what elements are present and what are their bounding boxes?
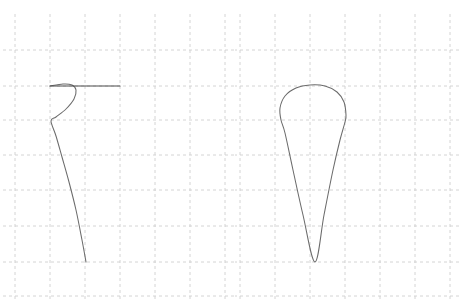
left-panel-gridlines xyxy=(3,14,235,302)
curve-closed-teardrop-curve xyxy=(280,85,346,262)
left-panel xyxy=(0,0,235,306)
left-panel-canvas xyxy=(0,0,235,306)
plot-root xyxy=(0,0,469,306)
right-panel-gridlines xyxy=(235,14,462,302)
right-panel-canvas xyxy=(235,0,469,306)
right-panel xyxy=(235,0,469,306)
curve-open-teardrop-curve xyxy=(50,84,86,262)
right-panel-curves xyxy=(280,85,346,262)
